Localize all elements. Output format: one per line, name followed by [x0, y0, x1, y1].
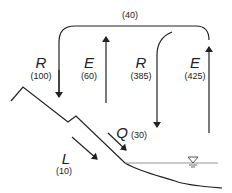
precip-ocean-value: (385) [130, 71, 151, 81]
groundwater-value: (10) [56, 166, 72, 176]
water-surface-icon [188, 157, 198, 167]
loop-value: (40) [122, 10, 138, 20]
evap-ocean-symbol: E [190, 54, 201, 71]
runoff-value: (30) [131, 130, 147, 140]
groundwater-arrow [72, 137, 97, 159]
precip-land-value: (100) [30, 71, 51, 81]
precip-ocean-symbol: R [136, 54, 147, 71]
water-cycle-diagram: (40) R (100) E (60) R (385) E (425) Q (3… [0, 0, 232, 193]
atmospheric-transport-loop [59, 26, 209, 97]
evap-land-symbol: E [84, 54, 95, 71]
evap-ocean-value: (425) [184, 71, 205, 81]
precip-land-symbol: R [36, 54, 47, 71]
groundwater-symbol: L [62, 150, 70, 167]
runoff-symbol: Q [116, 124, 128, 141]
evap-land-value: (60) [81, 71, 97, 81]
precip-ocean-arrow [157, 32, 172, 127]
